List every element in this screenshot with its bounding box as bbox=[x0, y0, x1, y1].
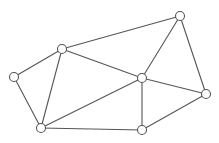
graph-diagram bbox=[0, 0, 219, 143]
nodes-group bbox=[10, 12, 211, 135]
node-C bbox=[176, 12, 185, 21]
edge-A-G bbox=[14, 77, 41, 128]
edges-group bbox=[14, 16, 206, 130]
node-B bbox=[58, 45, 67, 54]
node-D bbox=[138, 74, 147, 83]
edge-B-G bbox=[41, 49, 62, 128]
edge-D-G bbox=[41, 78, 142, 128]
node-A bbox=[10, 73, 19, 82]
node-E bbox=[202, 90, 211, 99]
node-F bbox=[138, 126, 147, 135]
edge-A-B bbox=[14, 49, 62, 77]
edge-F-E bbox=[142, 94, 206, 130]
edge-B-D bbox=[62, 49, 142, 78]
edge-G-F bbox=[41, 128, 142, 130]
node-G bbox=[37, 124, 46, 133]
edge-C-E bbox=[180, 16, 206, 94]
edge-D-E bbox=[142, 78, 206, 94]
